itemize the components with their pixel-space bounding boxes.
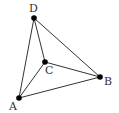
vertex-label-a: A <box>8 100 18 113</box>
vertex-label-b: B <box>104 75 112 88</box>
vertex-d <box>31 15 37 21</box>
edge-dc <box>34 18 45 62</box>
tetrahedron-diagram: ABCD <box>0 0 119 113</box>
edge-ab <box>19 77 100 98</box>
edge-da <box>19 18 34 98</box>
vertex-a <box>16 95 22 101</box>
vertex-label-c: C <box>45 64 53 77</box>
vertex-label-d: D <box>29 2 38 15</box>
vertex-b <box>97 74 103 80</box>
edges <box>19 18 100 98</box>
